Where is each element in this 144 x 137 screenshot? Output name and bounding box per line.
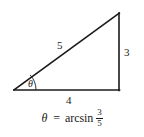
caption-equation: θ = arcsin 3 5: [0, 108, 144, 129]
equation-theta-symbol: θ: [41, 111, 47, 126]
opposite-length-label: 3: [124, 47, 130, 58]
figure-container: 5 3 4 θ θ = arcsin 3 5: [0, 0, 144, 137]
equation-equals-sign: =: [53, 111, 60, 126]
equation-arcsin-function: arcsin: [65, 111, 93, 126]
adjacent-length-label: 4: [66, 95, 72, 106]
fraction-denominator: 5: [96, 119, 103, 128]
theta-angle-label: θ: [28, 79, 33, 89]
hypotenuse-length-label: 5: [57, 40, 63, 51]
fraction-numerator: 3: [96, 108, 103, 117]
equation-fraction: 3 5: [96, 108, 103, 129]
